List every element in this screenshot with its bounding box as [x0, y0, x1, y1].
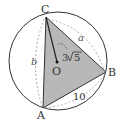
- center-dot: [56, 61, 59, 64]
- inscribed-triangle-diagram: C B A O a b 10 3 5: [0, 0, 122, 128]
- label-C: C: [41, 3, 49, 16]
- label-a: a: [78, 32, 84, 43]
- label-radius-coef: 3: [62, 52, 68, 63]
- label-B: B: [108, 66, 116, 79]
- label-O: O: [52, 65, 61, 78]
- label-side-10: 10: [73, 91, 86, 102]
- label-radius-root: 5: [74, 52, 80, 63]
- label-A: A: [36, 109, 46, 122]
- label-b: b: [31, 56, 37, 67]
